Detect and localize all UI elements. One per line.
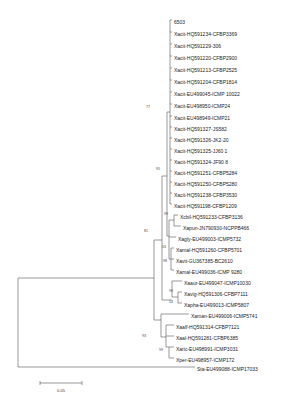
bootstrap-value: 99 [164,212,168,216]
leaf-label: Xacit-HQ591250-CFBP5280 [174,181,237,187]
leaf-label: Xacit-HQ591325-JJ60 1 [174,148,228,154]
bootstrap-value: 81 [144,229,148,233]
leaf-label: Xaal-HQ591281-CFBP6385 [176,335,238,341]
leaf-label: Xavit-GU367385-BC2610 [176,258,233,264]
bootstrap-value: 98 [163,259,167,263]
leaf-label: Xaalf-HQ591314-CFBP7121 [176,324,240,330]
leaf-label: Xapun-JN790930-NCPPB466 [183,225,249,231]
leaf-label: Xcbil-HQ591233-CFBP3136 [180,214,243,220]
scale-bar: 0.05 [40,381,82,393]
leaf-label: Xacit-HQ591234-CFBP3369 [174,31,237,37]
leaf-label: Xapha-EU499013-ICMP5807 [184,302,249,308]
bootstrap-value: 53 [162,245,166,249]
bootstrap-value: 77 [146,105,150,109]
bootstrap-value: 99 [169,289,173,293]
leaf-label: Xavig-HQ591306-CFBP7111 [184,291,248,297]
leaf-label: Xacit-HQ591326-JK2-20 [174,137,229,143]
leaf-label: Xacit-HQ591204-CFBP1814 [174,79,237,85]
leaf-label: Xacit-EU498950-ICMP24 [174,103,230,109]
leaf-label: Xaric-EU498991-ICMP3031 [176,346,238,352]
leaf-label: Sta-EU499088-ICMP17033 [197,366,258,372]
phylogenetic-tree: 6503Xacit-HQ591234-CFBP3369Xacit-HQ59122… [0,0,282,402]
bootstrap-value: 14 [169,300,173,304]
leaf-label: Xamal-HQ591260-CFBP5701 [176,247,242,253]
leaf-label: Xacit-HQ591251-CFBP5284 [174,170,237,176]
bootstrap-value: 99 [159,348,163,352]
leaf-label: Xacit-HQ591213-CFBP2525 [174,67,237,73]
leaf-label: Xaaur-EU499047-ICMP10030 [184,280,251,286]
tree-branches [18,20,195,367]
leaf-label: Xacit-HQ591220-CFBP2900 [174,55,237,61]
leaf-label: Xacit-EU499045-ICMP 10022 [174,91,240,97]
leaf-label: Xacit-EU498949-ICMP21 [174,115,230,121]
leaf-labels: 6503Xacit-HQ591234-CFBP3369Xacit-HQ59122… [174,19,258,372]
leaf-label: Xagly-EU499003-ICMP5732 [178,236,241,242]
scale-bar-label: 0.05 [57,388,66,393]
bootstrap-value: 95 [156,167,160,171]
bootstrap-value: 93 [142,334,146,338]
leaf-label: 6503 [174,19,185,25]
leaf-label: Xper-EU498957-ICMP172 [176,357,235,363]
bootstrap-values: 77959981539899149399 [142,105,173,352]
leaf-label: Xacit-HQ591327-JS582 [174,126,227,132]
leaf-label: Xacit-HQ591238-CFBP3530 [174,192,237,198]
leaf-label: Xacit-HQ591229-306 [174,43,221,49]
leaf-label: Xacit-HQ591324-JF90 8 [174,159,228,165]
leaf-label: Xaman-EU499006-ICMP5741 [191,313,258,319]
leaf-label: Xacit-HQ591198-CFBP1209 [174,203,237,209]
leaf-label: Xamal-EU499036-ICMP 9280 [176,269,242,275]
